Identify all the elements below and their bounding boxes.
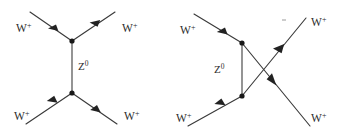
leg-incoming-upper-left (30, 12, 72, 41)
label-incoming-lower-left: W+ (14, 109, 30, 123)
vertex-lower-t-channel (69, 90, 74, 95)
feynman-diagram-canvas: W+ W+ W+ W+ Z0 W (0, 0, 343, 137)
leg-outgoing-upper-right (72, 12, 115, 41)
label-propagator-z0-u-channel: Z0 (214, 62, 225, 76)
leg-incoming-lower-left-u (188, 96, 242, 126)
label-incoming-upper-left-u: W+ (180, 23, 196, 37)
leg-incoming-upper-left-u (194, 14, 242, 43)
vertex-upper-u-channel (239, 40, 244, 45)
label-outgoing-lower-right: W+ (124, 109, 140, 123)
label-outgoing-crossed-upper-u: W+ (311, 15, 327, 29)
label-outgoing-crossed-lower-u: W+ (311, 111, 327, 125)
diagram-t-channel: W+ W+ W+ W+ Z0 (14, 12, 140, 124)
leg-outgoing-crossed-upper-u (242, 18, 306, 96)
label-incoming-upper-left: W+ (16, 21, 32, 35)
leg-incoming-lower-left (26, 93, 72, 124)
diagram-u-channel: W+ W+ W+ W+ Z0 (176, 14, 327, 126)
feynman-diagram-figure: W+ W+ W+ W+ Z0 W (0, 0, 343, 137)
arrow-incoming-lower-left-u (214, 98, 225, 105)
label-incoming-lower-left-u: W+ (176, 111, 192, 125)
vertex-upper-t-channel (69, 38, 74, 43)
label-outgoing-upper-right: W+ (122, 21, 138, 35)
vertex-lower-u-channel (239, 93, 244, 98)
label-propagator-z0-t-channel: Z0 (78, 59, 89, 73)
arrow-incoming-lower-left (47, 96, 58, 103)
